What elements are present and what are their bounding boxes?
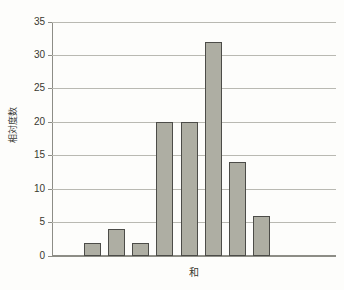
y-axis-tick-label: 25 (34, 83, 45, 93)
bar (181, 122, 198, 256)
bar (84, 243, 101, 256)
y-axis-tick-label: 30 (34, 50, 45, 60)
bar (205, 42, 222, 256)
y-axis-tick-label: 0 (39, 251, 45, 261)
y-axis-label: 相対度数 (6, 95, 22, 155)
y-axis-tick-label: 20 (34, 117, 45, 127)
x-axis-label: 和 (52, 264, 336, 279)
bar (253, 216, 270, 256)
bar-chart: 相対度数 05101520253035 和 (0, 0, 344, 290)
bar (108, 229, 125, 256)
y-axis-tick-label: 10 (34, 184, 45, 194)
bar (229, 162, 246, 256)
plot-area: 05101520253035 (52, 22, 336, 256)
y-axis-tick-label: 5 (39, 217, 45, 227)
y-axis-tick-label: 35 (34, 17, 45, 27)
bar (156, 122, 173, 256)
y-axis-tick-label: 15 (34, 150, 45, 160)
bar-series (52, 22, 336, 256)
bar (132, 243, 149, 256)
